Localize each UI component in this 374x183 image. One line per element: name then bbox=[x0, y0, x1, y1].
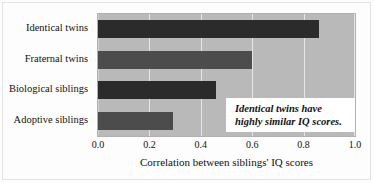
y-axis-label-1: Fraternal twins bbox=[0, 54, 93, 65]
bar-2 bbox=[98, 51, 252, 69]
annotation-callout: Identical twins have highly similar IQ s… bbox=[226, 98, 355, 132]
y-axis-label-3: Adoptive siblings bbox=[0, 115, 93, 126]
y-axis-label-0: Identical twins bbox=[0, 23, 93, 34]
x-tick-0.6: 0.6 bbox=[246, 139, 259, 150]
chart-figure: Identical twins Fraternal twins Biologic… bbox=[0, 0, 374, 183]
bar-4 bbox=[98, 112, 173, 130]
y-axis-labels: Identical twins Fraternal twins Biologic… bbox=[0, 14, 93, 136]
y-axis-label-2: Biological siblings bbox=[0, 84, 93, 95]
x-axis-ticks: 0.00.20.40.60.81.0 bbox=[98, 139, 355, 153]
bar-row bbox=[98, 14, 355, 45]
bar-3 bbox=[98, 81, 216, 99]
annotation-line-1: Identical twins have bbox=[235, 102, 348, 115]
annotation-line-2: highly similar IQ scores. bbox=[235, 115, 348, 128]
x-tick-1.0: 1.0 bbox=[349, 139, 362, 150]
bar-1 bbox=[98, 20, 319, 38]
x-tick-0.8: 0.8 bbox=[297, 139, 310, 150]
x-tick-0.0: 0.0 bbox=[92, 139, 105, 150]
x-tick-0.4: 0.4 bbox=[195, 139, 208, 150]
bar-row bbox=[98, 45, 355, 76]
x-axis-title: Correlation between siblings' IQ scores bbox=[98, 156, 355, 168]
x-tick-0.2: 0.2 bbox=[143, 139, 156, 150]
